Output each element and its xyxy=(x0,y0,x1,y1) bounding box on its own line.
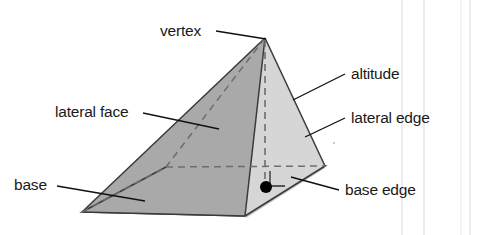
label-altitude: altitude xyxy=(351,65,399,82)
altitude-foot-dot xyxy=(260,181,272,193)
label-lateral-edge: lateral edge xyxy=(351,109,430,126)
label-base-edge: base edge xyxy=(345,181,416,198)
pyramid-diagram: vertex altitude lateral edge lateral fac… xyxy=(0,0,485,235)
label-base: base xyxy=(14,176,47,193)
label-lateral-face: lateral face xyxy=(55,103,128,120)
label-vertex: vertex xyxy=(160,22,201,39)
scan-speck xyxy=(333,142,335,144)
